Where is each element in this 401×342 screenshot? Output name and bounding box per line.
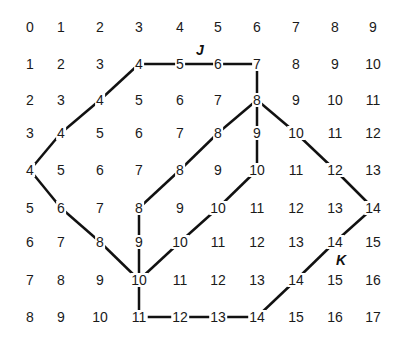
grid-cell: 3 xyxy=(25,126,35,140)
grid-cell: 2 xyxy=(95,20,105,34)
grid-cell: 10 xyxy=(326,93,344,107)
grid-cell: 1 xyxy=(25,57,35,71)
grid-cell: 4 xyxy=(25,163,35,177)
grid-cell: 10 xyxy=(287,126,305,140)
grid-cell: 10 xyxy=(209,201,227,215)
grid-cell: 3 xyxy=(56,93,66,107)
grid-cell: 13 xyxy=(326,201,344,215)
grid-cell: 8 xyxy=(95,235,105,249)
grid-cell: 5 xyxy=(56,163,66,177)
grid-cell: 4 xyxy=(175,20,185,34)
grid-cell: 9 xyxy=(252,126,262,140)
grid-cell: 10 xyxy=(364,57,382,71)
grid-cell: 8 xyxy=(291,57,301,71)
grid-cell: 15 xyxy=(287,310,305,324)
grid-cell: 12 xyxy=(209,273,227,287)
grid-cell: 11 xyxy=(210,235,227,249)
grid-cell: 7 xyxy=(213,93,223,107)
grid-cell: 9 xyxy=(134,235,144,249)
grid-cell: 9 xyxy=(95,273,105,287)
grid-cell: 8 xyxy=(134,201,144,215)
grid-cell: 3 xyxy=(95,57,105,71)
grid-cell: 7 xyxy=(134,163,144,177)
grid-cell: 10 xyxy=(248,163,266,177)
grid-cell: 7 xyxy=(252,57,262,71)
grid-cell: 2 xyxy=(25,93,35,107)
grid-cell: 5 xyxy=(175,57,185,71)
grid-cell: 11 xyxy=(288,163,305,177)
grid-cell: 14 xyxy=(287,273,305,287)
grid-cell: 16 xyxy=(364,273,382,287)
grid-cell: 5 xyxy=(95,126,105,140)
grid-cell: 9 xyxy=(213,163,223,177)
grid-cell: 12 xyxy=(326,163,344,177)
grid-cell: 17 xyxy=(364,310,382,324)
grid-cell: 9 xyxy=(291,93,301,107)
grid-diagram: 0123456789123456789102345678910113456789… xyxy=(0,0,401,342)
grid-cell: 12 xyxy=(364,126,382,140)
grid-cell: 11 xyxy=(131,310,148,324)
grid-cell: 4 xyxy=(134,57,144,71)
grid-cell: 9 xyxy=(330,57,340,71)
grid-cell: 8 xyxy=(330,20,340,34)
grid-cell: 10 xyxy=(91,310,109,324)
grid-cell: 7 xyxy=(291,20,301,34)
grid-cell: 8 xyxy=(213,126,223,140)
grid-cell: 12 xyxy=(248,235,266,249)
grid-cell: 0 xyxy=(25,20,35,34)
grid-cell: 4 xyxy=(95,93,105,107)
grid-cell: 13 xyxy=(287,235,305,249)
grid-cell: 9 xyxy=(368,20,378,34)
grid-cell: 8 xyxy=(252,93,262,107)
grid-cell: 15 xyxy=(364,235,382,249)
grid-cell: 7 xyxy=(95,201,105,215)
grid-cell: 13 xyxy=(364,163,382,177)
grid-cell: 15 xyxy=(326,273,344,287)
grid-cell: 1 xyxy=(56,20,66,34)
grid-cell: 4 xyxy=(56,126,66,140)
grid-cell: 6 xyxy=(95,163,105,177)
grid-cell: 7 xyxy=(175,126,185,140)
grid-cell: 6 xyxy=(56,201,66,215)
grid-cell: 16 xyxy=(326,310,344,324)
grid-cell: 10 xyxy=(130,273,148,287)
grid-cell: 2 xyxy=(56,57,66,71)
grid-cell: 11 xyxy=(172,273,189,287)
grid-cell: 13 xyxy=(209,310,227,324)
grid-cell: 14 xyxy=(326,235,344,249)
node-label-k: K xyxy=(336,252,346,268)
grid-cell: 6 xyxy=(213,57,223,71)
grid-cell: 7 xyxy=(56,235,66,249)
grid-cell: 6 xyxy=(252,20,262,34)
grid-cell: 5 xyxy=(213,20,223,34)
grid-cell: 11 xyxy=(327,126,344,140)
grid-cell: 14 xyxy=(248,310,266,324)
grid-cell: 6 xyxy=(175,93,185,107)
grid-cell: 14 xyxy=(364,201,382,215)
grid-cell: 5 xyxy=(25,201,35,215)
grid-cell: 13 xyxy=(248,273,266,287)
grid-cell: 9 xyxy=(175,201,185,215)
grid-cell: 5 xyxy=(134,93,144,107)
grid-cell: 7 xyxy=(25,273,35,287)
grid-cell: 8 xyxy=(56,273,66,287)
grid-cell: 3 xyxy=(134,20,144,34)
grid-cell: 8 xyxy=(25,310,35,324)
grid-cell: 10 xyxy=(171,235,189,249)
edge-line xyxy=(139,170,180,208)
grid-cell: 8 xyxy=(175,163,185,177)
grid-cell: 9 xyxy=(56,310,66,324)
grid-cell: 12 xyxy=(287,201,305,215)
grid-cell: 6 xyxy=(25,235,35,249)
node-label-j: J xyxy=(196,42,204,58)
grid-cell: 11 xyxy=(365,93,382,107)
grid-cell: 12 xyxy=(171,310,189,324)
grid-cell: 11 xyxy=(249,201,266,215)
grid-cell: 6 xyxy=(134,126,144,140)
